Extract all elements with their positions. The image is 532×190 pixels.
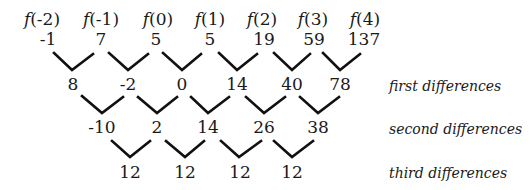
function-label: f(0)	[143, 11, 173, 28]
first-difference: 0	[177, 76, 188, 93]
function-label: f(2)	[247, 11, 277, 28]
second-difference: 38	[307, 119, 329, 136]
function-label: f(3)	[298, 11, 328, 28]
function-value: 137	[348, 31, 380, 48]
first-difference: 40	[281, 76, 303, 93]
second-difference: 14	[197, 119, 219, 136]
row-label-second: second differences	[389, 122, 522, 136]
second-difference: 26	[253, 119, 275, 136]
function-label: f(-2)	[24, 11, 60, 28]
row-label-first: first differences	[389, 79, 501, 93]
first-difference: -2	[120, 76, 137, 93]
first-difference: 78	[329, 76, 351, 93]
function-value: 19	[253, 31, 275, 48]
function-value: 5	[151, 31, 162, 48]
second-difference: 2	[152, 119, 163, 136]
function-label: f(4)	[350, 11, 380, 28]
third-difference: 12	[174, 164, 196, 181]
first-difference: 14	[226, 76, 248, 93]
function-value: 7	[96, 31, 107, 48]
function-value: -1	[40, 31, 57, 48]
third-difference: 12	[229, 164, 251, 181]
first-difference: 8	[68, 76, 79, 93]
second-difference: -10	[88, 119, 115, 136]
row-label-third: third differences	[389, 166, 507, 180]
third-difference: 12	[119, 164, 141, 181]
function-label: f(-1)	[83, 11, 119, 28]
function-value: 5	[205, 31, 216, 48]
function-value: 59	[303, 31, 325, 48]
third-difference: 12	[281, 164, 303, 181]
function-label: f(1)	[195, 11, 225, 28]
